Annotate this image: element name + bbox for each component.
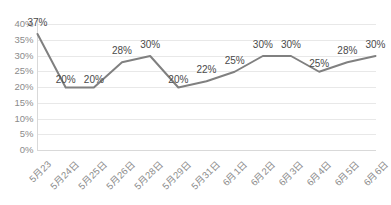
y-axis-tick-label: 5% <box>20 128 34 139</box>
y-axis-tick-label: 0% <box>20 144 34 155</box>
data-point-label: 37% <box>27 17 47 28</box>
data-point-label: 20% <box>84 74 104 85</box>
data-point-label: 30% <box>140 39 160 50</box>
data-point-label: 30% <box>281 39 301 50</box>
y-axis-tick-label: 10% <box>14 113 33 124</box>
y-axis-tick-label: 30% <box>14 50 33 61</box>
data-point-label: 20% <box>168 74 188 85</box>
data-point-label: 30% <box>253 39 273 50</box>
data-point-label: 25% <box>309 58 329 69</box>
data-point-label: 20% <box>56 74 76 85</box>
data-point-label: 25% <box>225 55 245 66</box>
y-axis-tick-label: 25% <box>14 65 33 76</box>
data-point-label: 30% <box>365 39 385 50</box>
y-axis-tick-label: 35% <box>14 34 33 45</box>
y-axis-tick-label: 15% <box>14 97 33 108</box>
y-axis-tick-label: 20% <box>14 81 33 92</box>
data-point-label: 22% <box>196 64 216 75</box>
data-point-label: 28% <box>337 45 357 56</box>
data-point-label: 28% <box>112 45 132 56</box>
